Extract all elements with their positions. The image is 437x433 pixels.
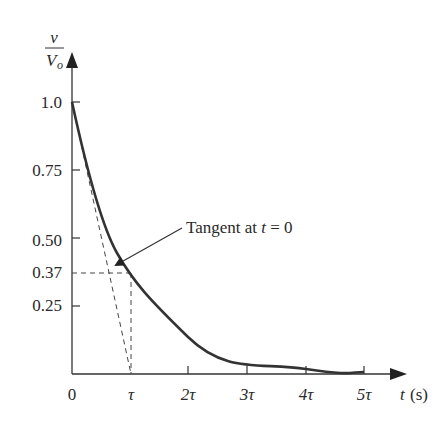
x-axis-arrow-icon [390, 368, 407, 380]
y-axis-label-numerator: v [50, 28, 58, 47]
y-axis-label-denominator-sub: o [57, 58, 63, 72]
y-tick-label: 1.0 [41, 93, 62, 112]
chart: 1.0 0.75 0.50 0.37 0.25 0 τ 2τ 3τ 4τ 5τ … [0, 0, 437, 433]
x-tick-label: τ [128, 385, 135, 404]
y-tick-label: 0.50 [32, 231, 62, 250]
decay-curve [72, 102, 364, 373]
y-axis-arrow-icon [66, 52, 78, 68]
y-tick-label: 0.25 [32, 296, 62, 315]
x-tick-label: 4τ [299, 385, 315, 404]
x-tick-label: 2τ [181, 385, 197, 404]
y-tick-label: 0.37 [32, 263, 62, 282]
x-tick-label: 0 [68, 385, 77, 404]
x-axis-label-unit: (s) [410, 385, 428, 404]
x-axis-label-var: t [400, 385, 406, 404]
annotation-arrow [116, 228, 182, 265]
x-tick-label: 5τ [357, 385, 373, 404]
annotation-text: Tangent at t = 0 [186, 218, 293, 237]
y-tick-label: 0.75 [32, 161, 62, 180]
x-tick-label: 3τ [239, 385, 256, 404]
